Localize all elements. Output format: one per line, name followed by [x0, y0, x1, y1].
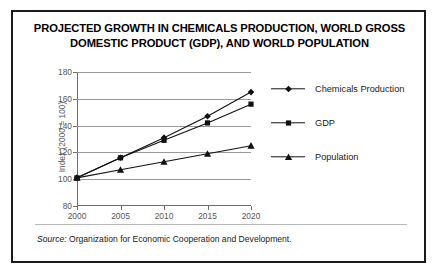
legend-marker [282, 82, 295, 96]
data-point-marker [118, 155, 123, 160]
x-tick-mark [121, 206, 122, 210]
data-point-marker [285, 153, 292, 160]
x-tick-mark [164, 206, 165, 210]
data-point-marker [161, 138, 166, 143]
source-divider [35, 224, 407, 225]
diamond-marker-icon [271, 82, 305, 96]
y-tick-label: 100 [58, 174, 72, 184]
legend-label: Chemicals Production [315, 84, 404, 94]
x-tick-mark [208, 206, 209, 210]
data-point-marker [286, 120, 291, 125]
chart-title: PROJECTED GROWTH IN CHEMICALS PRODUCTION… [27, 21, 412, 50]
y-tick-label: 120 [58, 147, 72, 157]
source-prefix: Source: [37, 234, 67, 244]
legend-marker [282, 150, 295, 164]
chart-title-line-1: PROJECTED GROWTH IN CHEMICALS PRODUCTION… [27, 21, 412, 36]
y-tick-label: 180 [58, 67, 72, 77]
data-point-marker [248, 102, 253, 107]
x-tick-label: 2005 [111, 211, 130, 221]
chart-legend: Chemicals ProductionGDPPopulation [271, 72, 421, 174]
x-tick-label: 2010 [155, 211, 174, 221]
series-gdp [74, 102, 253, 181]
y-tick-label: 160 [58, 94, 72, 104]
x-tick-label: 2015 [198, 211, 217, 221]
x-tick-mark [251, 206, 252, 210]
series-layer [77, 72, 251, 206]
data-point-marker [247, 142, 254, 149]
chart-title-line-2: DOMESTIC PRODUCT (GDP), AND WORLD POPULA… [27, 36, 412, 51]
x-tick-label: 2000 [68, 211, 87, 221]
y-tick-label: 140 [58, 121, 72, 131]
legend-marker [282, 116, 295, 130]
data-point-marker [204, 113, 211, 120]
series-population [73, 142, 254, 181]
legend-item-population[interactable]: Population [271, 140, 421, 174]
plot-area: 80100120140160180 20002005201020152020 [77, 72, 251, 206]
legend-label: Population [315, 152, 358, 162]
data-point-marker [285, 86, 292, 93]
square-marker-icon [271, 116, 305, 130]
source-text: Organization for Economic Cooperation an… [69, 234, 292, 244]
triangle-marker-icon [271, 150, 305, 164]
legend-item-chemicals-production[interactable]: Chemicals Production [271, 72, 421, 106]
x-tick-label: 2020 [242, 211, 261, 221]
data-point-marker [205, 120, 210, 125]
legend-item-gdp[interactable]: GDP [271, 106, 421, 140]
y-tick-label: 80 [63, 201, 72, 211]
chart-figure: PROJECTED GROWTH IN CHEMICALS PRODUCTION… [11, 10, 426, 263]
data-point-marker [248, 89, 255, 96]
legend-label: GDP [315, 118, 335, 128]
source-note: Source: Organization for Economic Cooper… [37, 234, 292, 244]
x-tick-mark [77, 206, 78, 210]
